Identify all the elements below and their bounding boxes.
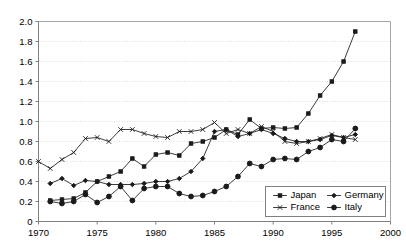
- marker-circle: [83, 192, 88, 197]
- marker-circle: [259, 164, 264, 169]
- marker-circle: [294, 157, 299, 162]
- marker-cross: [71, 150, 76, 155]
- marker-square: [131, 157, 134, 160]
- marker-diamond: [48, 181, 52, 185]
- marker-square: [166, 151, 169, 154]
- marker-circle: [329, 137, 334, 142]
- marker-circle: [153, 184, 158, 189]
- marker-cross: [48, 166, 53, 171]
- x-tick-label: 1980: [145, 227, 166, 238]
- marker-diamond: [177, 176, 181, 180]
- y-tick-label: 0.2: [19, 196, 32, 207]
- marker-square: [142, 165, 145, 168]
- y-axis-tick-labels: 00.20.40.60.81.01.21.41.61.82.0: [19, 16, 32, 227]
- marker-circle: [177, 191, 182, 196]
- marker-circle: [165, 184, 170, 189]
- marker-circle: [318, 145, 323, 150]
- marker-square: [107, 175, 110, 178]
- marker-circle: [48, 199, 53, 204]
- marker-circle: [95, 200, 100, 205]
- series-germany: [48, 127, 357, 187]
- chart-legend: JapanGermanyFranceItaly: [266, 187, 386, 217]
- marker-circle: [271, 157, 276, 162]
- marker-square: [201, 140, 204, 143]
- x-axis-tick-labels: 1970197519801985199019952000: [28, 227, 401, 238]
- marker-circle: [332, 205, 337, 210]
- series-france: [36, 120, 357, 171]
- y-tick-label: 0.6: [19, 156, 32, 167]
- marker-circle: [306, 149, 311, 154]
- marker-circle: [353, 126, 358, 131]
- data-series-layer: [36, 30, 357, 206]
- marker-square: [283, 127, 286, 130]
- marker-diamond: [154, 179, 158, 183]
- marker-diamond: [142, 181, 146, 185]
- marker-circle: [224, 184, 229, 189]
- marker-circle: [107, 194, 112, 199]
- marker-square: [307, 112, 310, 115]
- x-tick-label: 1995: [321, 227, 342, 238]
- marker-diamond: [353, 132, 357, 136]
- x-tick-label: 1975: [87, 227, 108, 238]
- marker-cross: [107, 139, 112, 144]
- marker-circle: [200, 193, 205, 198]
- y-tick-label: 0: [27, 216, 32, 227]
- marker-cross: [212, 120, 217, 125]
- marker-circle: [247, 161, 252, 166]
- marker-circle: [212, 189, 217, 194]
- marker-square: [295, 126, 298, 129]
- x-tick-label: 1985: [204, 227, 225, 238]
- marker-square: [178, 154, 181, 157]
- series-markers: [36, 120, 357, 171]
- y-tick-label: 1.8: [19, 36, 32, 47]
- marker-circle: [130, 198, 135, 203]
- series-markers: [48, 127, 357, 187]
- marker-square: [154, 153, 157, 156]
- marker-circle: [283, 156, 288, 161]
- marker-circle: [60, 201, 65, 206]
- marker-cross: [60, 157, 65, 162]
- marker-diamond: [83, 178, 87, 182]
- marker-square: [119, 170, 122, 173]
- legend-label: Germany: [345, 189, 384, 200]
- marker-diamond: [107, 182, 111, 186]
- marker-diamond: [130, 182, 134, 186]
- marker-square: [330, 80, 333, 83]
- y-tick-label: 0.4: [19, 176, 32, 187]
- marker-diamond: [212, 129, 216, 133]
- legend-label: Japan: [291, 189, 317, 200]
- y-tick-label: 1.4: [19, 76, 32, 87]
- x-tick-label: 1970: [28, 227, 49, 238]
- series-line: [50, 32, 355, 201]
- marker-circle: [189, 194, 194, 199]
- x-tick-label: 1990: [263, 227, 284, 238]
- series-japan: [49, 30, 357, 202]
- chart-container: 00.20.40.60.81.01.21.41.61.82.0 19701975…: [0, 0, 406, 249]
- gridlines: [39, 22, 391, 202]
- marker-circle: [142, 186, 147, 191]
- line-chart: 00.20.40.60.81.01.21.41.61.82.0 19701975…: [0, 0, 406, 249]
- marker-circle: [71, 199, 76, 204]
- marker-square: [189, 142, 192, 145]
- marker-diamond: [165, 179, 169, 183]
- marker-diamond: [72, 183, 76, 187]
- x-tick-label: 2000: [380, 227, 401, 238]
- y-tick-label: 2.0: [19, 16, 32, 27]
- marker-square: [278, 194, 281, 197]
- marker-circle: [341, 139, 346, 144]
- marker-square: [318, 94, 321, 97]
- marker-circle: [236, 174, 241, 179]
- marker-square: [213, 136, 216, 139]
- legend-label: Italy: [345, 201, 363, 212]
- marker-diamond: [60, 176, 64, 180]
- y-tick-label: 0.8: [19, 136, 32, 147]
- marker-square: [354, 30, 357, 33]
- y-tick-label: 1.0: [19, 116, 32, 127]
- series-markers: [49, 30, 357, 202]
- legend-label: France: [291, 201, 321, 212]
- y-tick-label: 1.2: [19, 96, 32, 107]
- marker-square: [342, 60, 345, 63]
- marker-square: [271, 126, 274, 129]
- marker-cross: [236, 127, 241, 132]
- marker-circle: [118, 184, 123, 189]
